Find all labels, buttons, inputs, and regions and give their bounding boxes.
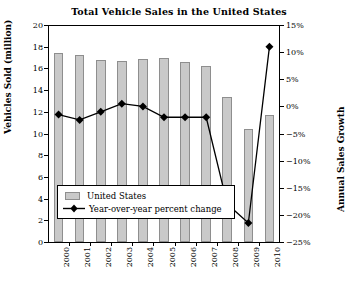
y-tick-label-left: 6 — [38, 172, 43, 181]
y-tick-label-left: 16 — [33, 64, 43, 73]
x-tick-label-2004: 2004 — [146, 247, 155, 267]
plot-area: 02468101214161820 −25%−20%−15%−10%−5%0%5… — [48, 25, 280, 243]
vehicle-sales-chart: Total Vehicle Sales in the United States… — [0, 0, 358, 282]
y-tick-label-left: 14 — [33, 86, 43, 95]
y-tick-label-left: 4 — [38, 194, 43, 203]
yoy-marker-2007 — [202, 113, 210, 121]
yoy-marker-2005 — [160, 113, 168, 121]
legend-label-yoy-change: Year-over-year percent change — [89, 204, 222, 214]
y-tick-label-left: 20 — [33, 21, 43, 30]
y-tick-label-right: −25% — [286, 238, 310, 247]
y-tick-label-left: 8 — [38, 151, 43, 160]
y-axis-label-left: Vehicles Sold (million) — [3, 20, 13, 134]
legend-label-united-states: United States — [87, 191, 146, 201]
chart-title: Total Vehicle Sales in the United States — [0, 6, 358, 17]
x-tick-label-2000: 2000 — [62, 247, 71, 267]
y-tick-label-right: −5% — [286, 129, 305, 138]
legend-item-united-states: United States — [62, 189, 230, 202]
x-tick-label-2008: 2008 — [231, 247, 240, 267]
y-tick-label-left: 0 — [38, 238, 43, 247]
diamond-line-icon — [62, 204, 86, 213]
y-tick-label-left: 10 — [33, 129, 43, 138]
y-tick-label-left: 18 — [33, 42, 43, 51]
legend-item-yoy-change: Year-over-year percent change — [62, 202, 230, 215]
x-tick-label-2001: 2001 — [83, 247, 92, 267]
yoy-marker-2003 — [118, 100, 126, 108]
x-tick-label-2006: 2006 — [189, 247, 198, 267]
x-tick-label-2003: 2003 — [125, 247, 134, 267]
y-tick-label-right: −15% — [286, 183, 310, 192]
chart-legend: United States Year-over-year percent cha… — [57, 185, 235, 219]
y-tick-label-left: 12 — [33, 107, 43, 116]
y-tick-label-right: −10% — [286, 156, 310, 165]
y-tick-label-right: 15% — [286, 21, 304, 30]
x-tick-label-2007: 2007 — [210, 247, 219, 267]
y-tick-label-right: 0% — [286, 102, 299, 111]
yoy-marker-2006 — [181, 113, 189, 121]
y-tick-label-right: 5% — [286, 75, 299, 84]
y-tick-label-right: 10% — [286, 48, 304, 57]
yoy-marker-2000 — [55, 111, 63, 119]
x-tick-label-2005: 2005 — [168, 247, 177, 267]
yoy-marker-2010 — [265, 43, 273, 51]
y-tick-label-right: −20% — [286, 210, 310, 219]
yoy-marker-2002 — [97, 108, 105, 116]
x-tick-label-2010: 2010 — [273, 247, 282, 267]
yoy-marker-2001 — [76, 116, 84, 124]
y-tick-label-left: 2 — [38, 216, 43, 225]
x-tick-label-2009: 2009 — [252, 247, 261, 267]
yoy-marker-2004 — [139, 102, 147, 110]
x-tick-label-2002: 2002 — [104, 247, 113, 267]
y-axis-label-right: Annual Sales Growth — [336, 106, 346, 212]
bar-swatch-icon — [65, 192, 80, 200]
